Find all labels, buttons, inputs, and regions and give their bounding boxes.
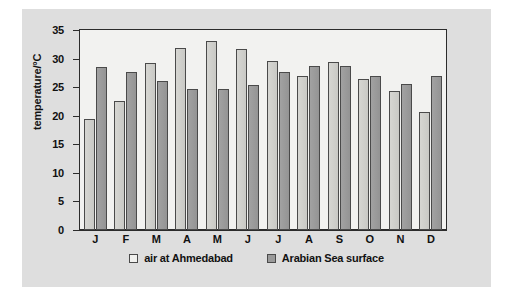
bar-group [297, 30, 320, 230]
x-axis-tick-label: J [92, 233, 98, 245]
y-axis-tick: 35 [73, 30, 79, 31]
y-axis-tick-label: 10 [52, 167, 64, 179]
legend-label-sea: Arabian Sea surface [282, 252, 384, 264]
bar-air-at-ahmedabad [389, 91, 400, 230]
y-axis-tick-label: 25 [52, 81, 64, 93]
y-axis-tick-label: 35 [52, 24, 64, 36]
legend-swatch-sea-icon [267, 254, 276, 263]
bar-arabian-sea-surface [401, 84, 412, 230]
bar-air-at-ahmedabad [358, 79, 369, 230]
bar-arabian-sea-surface [431, 76, 442, 230]
bar-arabian-sea-surface [187, 89, 198, 230]
bar-air-at-ahmedabad [114, 101, 125, 230]
y-axis-tick: 15 [73, 144, 79, 145]
bar-group [267, 30, 290, 230]
bar-arabian-sea-surface [340, 66, 351, 230]
bar-arabian-sea-surface [279, 72, 290, 230]
y-axis-title: temperature/°C [31, 54, 43, 130]
bar-air-at-ahmedabad [297, 76, 308, 230]
y-axis-tick: 25 [73, 87, 79, 88]
bar-group [389, 30, 412, 230]
bar-air-at-ahmedabad [206, 41, 217, 230]
x-axis-tick-label: J [275, 233, 281, 245]
x-axis-tick-label: A [305, 233, 313, 245]
bar-arabian-sea-surface [309, 66, 320, 230]
y-axis-tick: 20 [73, 116, 79, 117]
bar-arabian-sea-surface [248, 85, 259, 230]
y-axis-tick-label: 0 [58, 224, 64, 236]
bar-arabian-sea-surface [218, 89, 229, 230]
bar-group [328, 30, 351, 230]
bar-group [114, 30, 137, 230]
x-axis-tick-label: S [336, 233, 343, 245]
bar-group [358, 30, 381, 230]
x-axis-tick-label: M [152, 233, 161, 245]
bar-air-at-ahmedabad [175, 48, 186, 230]
bar-air-at-ahmedabad [145, 63, 156, 230]
bar-air-at-ahmedabad [84, 119, 95, 230]
legend-item-sea: Arabian Sea surface [267, 252, 384, 264]
x-axis [79, 230, 447, 231]
bar-group [419, 30, 442, 230]
x-axis-tick-label: D [427, 233, 435, 245]
x-axis-tick-label: J [245, 233, 251, 245]
bar-arabian-sea-surface [370, 76, 381, 230]
x-axis-tick-label: A [183, 233, 191, 245]
x-axis-tick-label: N [396, 233, 404, 245]
legend-swatch-air-icon [129, 254, 138, 263]
chart-figure: 05101520253035 temperature/°C air at Ahm… [0, 0, 513, 300]
y-axis-tick-label: 5 [58, 195, 64, 207]
bar-air-at-ahmedabad [236, 49, 247, 230]
bar-group [236, 30, 259, 230]
y-axis-tick: 10 [73, 173, 79, 174]
bar-air-at-ahmedabad [328, 62, 339, 230]
legend-label-air: air at Ahmedabad [144, 252, 233, 264]
bar-group [206, 30, 229, 230]
y-axis-tick-label: 15 [52, 138, 64, 150]
bar-group [145, 30, 168, 230]
bar-arabian-sea-surface [96, 67, 107, 230]
bar-arabian-sea-surface [157, 81, 168, 230]
y-axis-tick-label: 20 [52, 110, 64, 122]
bar-group [84, 30, 107, 230]
bar-group [175, 30, 198, 230]
x-axis-tick-label: F [122, 233, 129, 245]
x-axis-tick-label: O [366, 233, 374, 245]
y-axis: 05101520253035 [79, 29, 80, 230]
legend-item-air: air at Ahmedabad [129, 252, 233, 264]
x-axis-tick-label: M [213, 233, 222, 245]
y-axis-tick: 5 [73, 201, 79, 202]
bar-air-at-ahmedabad [419, 112, 430, 230]
bar-air-at-ahmedabad [267, 61, 278, 230]
chart-legend: air at Ahmedabad Arabian Sea surface [0, 252, 513, 264]
y-axis-tick-label: 30 [52, 53, 64, 65]
bars-layer [80, 30, 446, 230]
y-axis-tick: 30 [73, 59, 79, 60]
bar-arabian-sea-surface [126, 72, 137, 230]
